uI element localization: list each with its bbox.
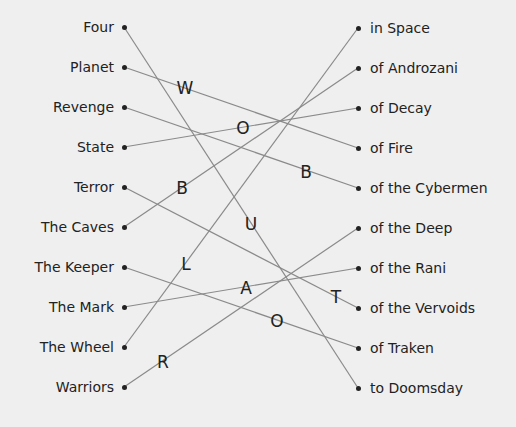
right-connector-dot[interactable] (356, 386, 361, 391)
right-item-label: of Decay (370, 99, 432, 117)
left-connector-dot[interactable] (122, 65, 127, 70)
right-item-label: to Doomsday (370, 379, 463, 397)
hidden-letter: B (176, 179, 188, 197)
hidden-letter: W (177, 79, 194, 97)
connection-line (124, 27, 358, 388)
right-item-label: of Androzani (370, 59, 458, 77)
right-connector-dot[interactable] (356, 106, 361, 111)
left-item-label: Warriors (4, 378, 114, 396)
left-item-label: The Keeper (4, 258, 114, 276)
left-item-label: Planet (4, 58, 114, 76)
right-item-label: of the Deep (370, 219, 452, 237)
left-connector-dot[interactable] (122, 225, 127, 230)
hidden-letter: T (331, 288, 341, 306)
left-connector-dot[interactable] (122, 185, 127, 190)
left-item-label: State (4, 138, 114, 156)
hidden-letter: A (240, 279, 252, 297)
left-connector-dot[interactable] (122, 145, 127, 150)
left-connector-dot[interactable] (122, 265, 127, 270)
left-connector-dot[interactable] (122, 305, 127, 310)
hidden-letter: B (300, 163, 312, 181)
left-item-label: Revenge (4, 98, 114, 116)
right-item-label: of Fire (370, 139, 413, 157)
right-item-label: of the Vervoids (370, 299, 475, 317)
connection-line (124, 68, 358, 227)
left-connector-dot[interactable] (122, 25, 127, 30)
right-connector-dot[interactable] (356, 346, 361, 351)
right-connector-dot[interactable] (356, 306, 361, 311)
hidden-letter: R (157, 353, 169, 371)
left-connector-dot[interactable] (122, 345, 127, 350)
left-item-label: The Caves (4, 218, 114, 236)
left-connector-dot[interactable] (122, 105, 127, 110)
left-connector-dot[interactable] (122, 385, 127, 390)
right-connector-dot[interactable] (356, 66, 361, 71)
right-item-label: of the Cybermen (370, 179, 488, 197)
matching-puzzle: FourPlanetRevengeStateTerrorThe CavesThe… (0, 0, 516, 427)
connection-line (124, 28, 358, 347)
hidden-letter: O (236, 119, 249, 137)
left-item-label: The Mark (4, 298, 114, 316)
right-connector-dot[interactable] (356, 146, 361, 151)
right-item-label: of Traken (370, 339, 434, 357)
hidden-letter: L (181, 255, 190, 273)
right-connector-dot[interactable] (356, 226, 361, 231)
right-connector-dot[interactable] (356, 26, 361, 31)
left-item-label: Terror (4, 178, 114, 196)
left-item-label: The Wheel (4, 338, 114, 356)
right-item-label: of the Rani (370, 259, 446, 277)
right-connector-dot[interactable] (356, 266, 361, 271)
right-item-label: in Space (370, 19, 430, 37)
hidden-letter: U (245, 215, 257, 233)
hidden-letter: O (270, 312, 283, 330)
left-item-label: Four (4, 18, 114, 36)
right-connector-dot[interactable] (356, 186, 361, 191)
